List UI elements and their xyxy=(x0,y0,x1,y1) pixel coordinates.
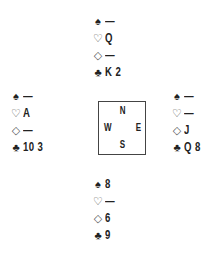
north-hearts: Q xyxy=(105,30,113,46)
diamond-icon: ◇ xyxy=(93,210,103,226)
west-spades: — xyxy=(23,88,33,104)
spade-icon: ♠ xyxy=(172,88,182,104)
compass-west: W xyxy=(104,122,112,133)
heart-icon: ♡ xyxy=(11,105,21,121)
east-clubs: Q 8 xyxy=(184,139,201,155)
club-icon: ♣ xyxy=(93,64,103,80)
south-spades: 8 xyxy=(105,176,111,192)
north-spades: — xyxy=(105,13,115,29)
heart-icon: ♡ xyxy=(93,30,103,46)
east-hearts: — xyxy=(184,105,194,121)
diamond-icon: ◇ xyxy=(172,122,182,138)
east-spades: — xyxy=(184,88,194,104)
heart-icon: ♡ xyxy=(172,105,182,121)
compass-box: N W E S xyxy=(98,101,146,155)
north-diamonds: — xyxy=(105,47,115,63)
west-diamonds: — xyxy=(23,122,33,138)
diamond-icon: ◇ xyxy=(93,47,103,63)
heart-icon: ♡ xyxy=(93,193,103,209)
compass-south: S xyxy=(120,139,125,150)
south-hearts: — xyxy=(105,193,115,209)
west-hearts: A xyxy=(23,105,30,121)
club-icon: ♣ xyxy=(93,227,103,243)
compass-north: N xyxy=(120,105,126,116)
compass-east: E xyxy=(136,122,141,133)
east-diamonds: J xyxy=(184,122,190,138)
north-clubs: K 2 xyxy=(105,64,121,80)
west-clubs: 10 3 xyxy=(23,139,43,155)
spade-icon: ♠ xyxy=(93,176,103,192)
south-clubs: 9 xyxy=(105,227,111,243)
diamond-icon: ◇ xyxy=(11,122,21,138)
south-diamonds: 6 xyxy=(105,210,111,226)
club-icon: ♣ xyxy=(11,139,21,155)
spade-icon: ♠ xyxy=(11,88,21,104)
spade-icon: ♠ xyxy=(93,13,103,29)
club-icon: ♣ xyxy=(172,139,182,155)
